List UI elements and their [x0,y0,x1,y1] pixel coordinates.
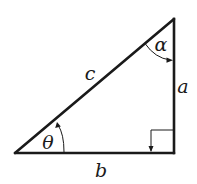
label-side-b: b [95,161,107,180]
right-angle-marker [151,130,174,151]
label-angle-alpha: α [155,35,168,54]
theta-angle-arc [58,125,64,152]
triangle-figure [0,0,197,184]
right-triangle-diagram: c α a θ b [0,0,197,184]
label-side-a: a [177,77,188,96]
right-angle-arrowhead [149,146,154,152]
theta-arc-arrowhead [55,122,61,128]
label-angle-theta: θ [42,133,53,152]
hypotenuse-c [15,19,174,153]
alpha-arc-arrowhead [167,58,174,63]
label-hypotenuse-c: c [85,64,96,83]
